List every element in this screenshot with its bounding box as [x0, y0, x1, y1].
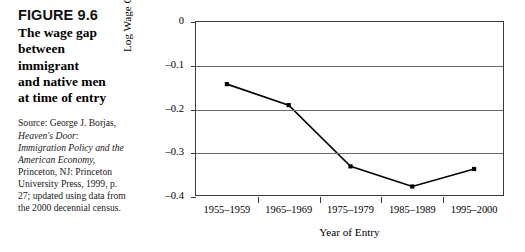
source-note: Source: George J. Borjas, Heaven's Door:… [18, 117, 126, 214]
data-point-marker [472, 167, 476, 171]
figure-title-line: immigrant [18, 58, 126, 74]
figure-title-line: The wage gap [18, 25, 126, 41]
plot-area: 0–0.1–0.2–0.3–0.41955–19591965–19691975–… [195, 21, 504, 196]
y-tick-label: –0.1 [144, 59, 184, 70]
figure-title-line: at time of entry [18, 90, 126, 106]
data-point-marker [287, 103, 291, 107]
source-suffix: Princeton, NJ: Princeton University Pres… [18, 166, 126, 213]
figure-title-line: between [18, 41, 126, 57]
x-tick-label: 1985–1989 [381, 204, 443, 215]
figure-title: The wage gapbetweenimmigrantand native m… [18, 25, 126, 106]
y-tick-mark [191, 153, 196, 154]
gridline [196, 66, 503, 67]
x-tick-label: 1975–1979 [320, 204, 382, 215]
caption-column: FIGURE 9.6 The wage gapbetweenimmigranta… [18, 7, 126, 214]
x-tick-label: 1955–1959 [196, 204, 258, 215]
data-point-marker [410, 184, 414, 188]
y-tick-label: –0.2 [144, 103, 184, 114]
figure-number: FIGURE 9.6 [18, 7, 126, 24]
y-tick-mark [191, 22, 196, 23]
gridline [196, 153, 503, 154]
figure-title-line: and native men [18, 74, 126, 90]
source-italic-title: Heaven's Door: Immigration Policy and th… [18, 130, 124, 165]
data-point-marker [225, 82, 229, 86]
gridline [196, 110, 503, 111]
x-tick-label: 1965–1969 [258, 204, 320, 215]
y-tick-mark [191, 66, 196, 67]
x-tick-mark [258, 197, 259, 203]
y-axis-label: Log Wage Gap [121, 0, 133, 52]
figure-page: FIGURE 9.6 The wage gapbetweenimmigranta… [0, 0, 525, 252]
y-tick-mark [191, 110, 196, 111]
y-tick-label: 0 [144, 15, 184, 26]
x-tick-label: 1995–2000 [443, 204, 505, 215]
y-tick-label: –0.4 [144, 190, 184, 201]
data-point-marker [348, 164, 352, 168]
x-tick-mark [320, 197, 321, 203]
y-tick-mark [191, 197, 196, 198]
source-prefix: Source: George J. Borjas, [18, 117, 116, 128]
data-line [227, 84, 474, 186]
y-tick-label: –0.3 [144, 146, 184, 157]
line-chart: Log Wage Gap 0–0.1–0.2–0.3–0.41955–19591… [126, 0, 525, 252]
x-tick-mark [381, 197, 382, 203]
x-tick-mark [443, 197, 444, 203]
x-axis-label: Year of Entry [195, 226, 504, 238]
